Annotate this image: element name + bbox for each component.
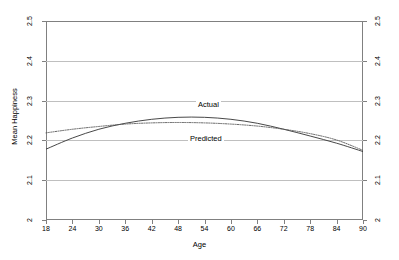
- plot-area: [46, 21, 363, 220]
- x-axis-tick-label: 54: [193, 225, 217, 233]
- y-axis-tick-label-right: 2.4: [374, 51, 382, 71]
- x-axis-tick-label: 42: [140, 225, 164, 233]
- y-axis-tick-left: [42, 61, 46, 62]
- y-axis-tick-left: [42, 21, 46, 22]
- x-axis-tick: [205, 220, 206, 224]
- y-axis-tick-right: [363, 101, 367, 102]
- x-axis-tick-label: 24: [60, 225, 84, 233]
- y-axis-tick-left: [42, 101, 46, 102]
- x-axis-tick: [310, 220, 311, 224]
- x-axis-tick: [337, 220, 338, 224]
- x-axis-tick: [284, 220, 285, 224]
- x-axis-tick: [99, 220, 100, 224]
- y-axis-tick-right: [363, 61, 367, 62]
- y-axis-tick-label-right: 2.5: [374, 11, 382, 31]
- y-axis-tick-right: [363, 140, 367, 141]
- y-axis-tick-left: [42, 180, 46, 181]
- x-axis-tick: [257, 220, 258, 224]
- y-axis-tick-right: [363, 180, 367, 181]
- y-axis-tick-label-right: 2: [374, 210, 382, 230]
- x-axis-tick-label: 78: [298, 225, 322, 233]
- y-axis-tick-label-right: 2.2: [374, 130, 382, 150]
- x-axis-tick-label: 90: [351, 225, 375, 233]
- x-axis-tick-label: 18: [34, 225, 58, 233]
- y-axis-title: Mean Happiness: [10, 77, 19, 157]
- y-axis-tick-label-left: 2.1: [26, 170, 34, 190]
- x-axis-tick-label: 66: [245, 225, 269, 233]
- y-axis-tick-label-left: 2.5: [26, 11, 34, 31]
- x-axis-tick-label: 72: [272, 225, 296, 233]
- y-axis-tick-label-left: 2.2: [26, 130, 34, 150]
- x-axis-tick-label: 60: [219, 225, 243, 233]
- y-axis-tick-label-right: 2.1: [374, 170, 382, 190]
- y-axis-tick-label-left: 2.3: [26, 91, 34, 111]
- happiness-vs-age-chart: Actual Predicted 2.52.52.42.42.32.32.22.…: [0, 0, 399, 260]
- x-axis-tick: [125, 220, 126, 224]
- y-axis-tick-left: [42, 140, 46, 141]
- actual-series-label: Actual: [196, 100, 221, 109]
- x-axis-tick: [178, 220, 179, 224]
- predicted-series-label: Predicted: [188, 134, 224, 143]
- x-axis-tick: [231, 220, 232, 224]
- x-axis-tick-label: 36: [113, 225, 137, 233]
- x-axis-title: Age: [0, 240, 399, 249]
- x-axis-tick-label: 30: [87, 225, 111, 233]
- x-axis-tick-label: 84: [325, 225, 349, 233]
- y-axis-tick-label-left: 2.4: [26, 51, 34, 71]
- y-axis-tick-label-right: 2.3: [374, 91, 382, 111]
- x-axis-tick: [72, 220, 73, 224]
- x-axis-tick: [363, 220, 364, 224]
- y-axis-tick-label-left: 2: [26, 210, 34, 230]
- x-axis-tick-label: 48: [166, 225, 190, 233]
- y-axis-tick-right: [363, 21, 367, 22]
- x-axis-tick: [152, 220, 153, 224]
- series-lines: [46, 21, 363, 220]
- x-axis-tick: [46, 220, 47, 224]
